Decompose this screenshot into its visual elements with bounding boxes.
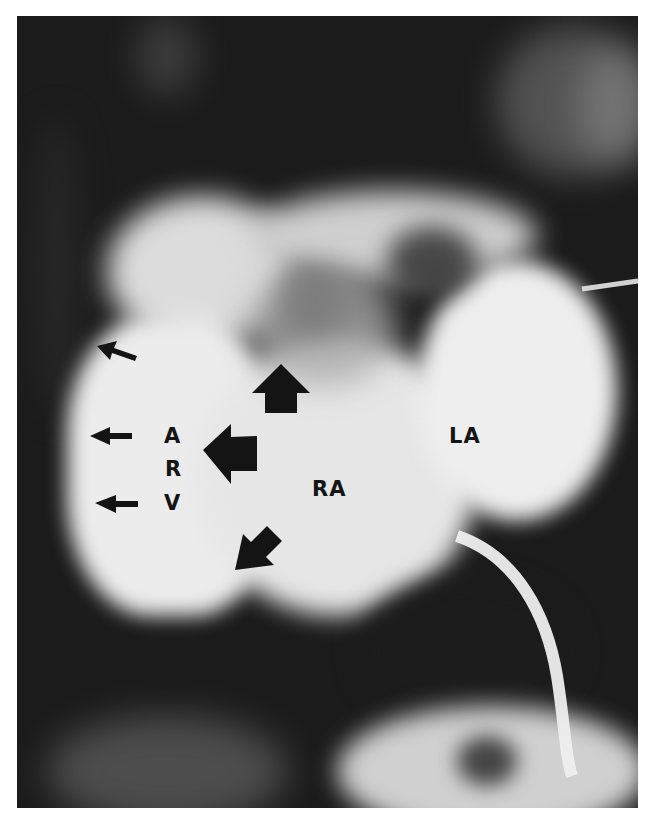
- catheter-upper: [582, 281, 638, 289]
- label-ra: RA: [312, 479, 346, 500]
- annotation-overlay: [17, 16, 638, 808]
- catheter-curved: [457, 536, 572, 776]
- label-arv-a: A: [164, 426, 181, 447]
- label-la: LA: [449, 426, 481, 447]
- label-arv-r: R: [165, 459, 182, 480]
- arrow-up-icon: [252, 364, 310, 413]
- label-arv-v: V: [164, 493, 181, 514]
- angiogram-image: A R V RA LA: [17, 16, 638, 808]
- arrow-down-left-icon: [235, 526, 282, 570]
- arrow-small-icon: [90, 341, 138, 513]
- arrow-left-icon: [203, 424, 257, 484]
